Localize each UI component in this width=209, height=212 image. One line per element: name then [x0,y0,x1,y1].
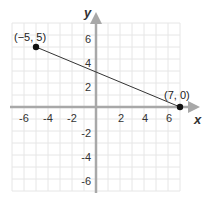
x-tick: -4 [43,112,53,124]
point-a-label: (−5, 5) [14,31,46,43]
y-axis-label: y [83,5,92,20]
y-axis-arrow-icon [90,12,102,24]
y-tick: -2 [81,127,91,139]
x-tick: -6 [19,112,29,124]
y-tick: -4 [81,151,91,163]
y-tick: 4 [85,57,91,69]
x-tick: 6 [166,112,172,124]
y-tick: 6 [85,33,91,45]
x-tick: -2 [67,112,77,124]
point-b-label: (7, 0) [164,89,190,101]
y-tick: -6 [81,175,91,187]
y-tick-labels: 6 4 2 -2 -4 -6 [81,33,91,187]
coordinate-plane: x y -6 -4 -2 2 4 6 6 4 2 -2 -4 -6 (−5, 5… [0,0,209,212]
point-b-marker [177,104,183,110]
x-axis-label: x [193,112,202,127]
y-axis [90,12,102,193]
x-tick: 4 [142,112,148,124]
point-a-marker [33,44,39,50]
x-tick: 2 [118,112,124,124]
y-tick: 2 [85,81,91,93]
